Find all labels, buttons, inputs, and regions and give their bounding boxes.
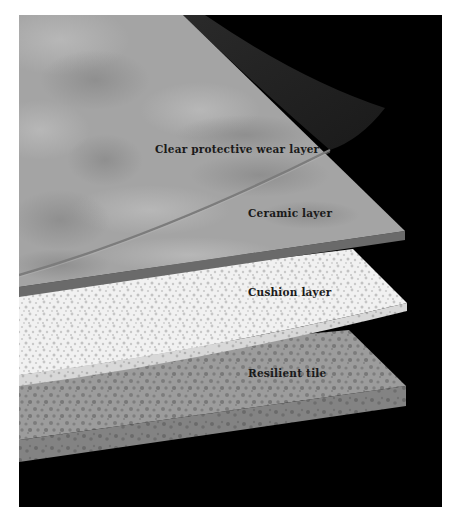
flooring-layers-diagram: Clear protective wear layer Ceramic laye… (0, 0, 451, 523)
diagram-graphic: Clear protective wear layer Ceramic laye… (0, 0, 451, 523)
label-wear-layer: Clear protective wear layer (155, 143, 320, 155)
label-cushion-layer: Cushion layer (248, 286, 332, 298)
label-ceramic-layer: Ceramic layer (248, 207, 332, 219)
label-resilient-tile: Resilient tile (248, 367, 327, 379)
